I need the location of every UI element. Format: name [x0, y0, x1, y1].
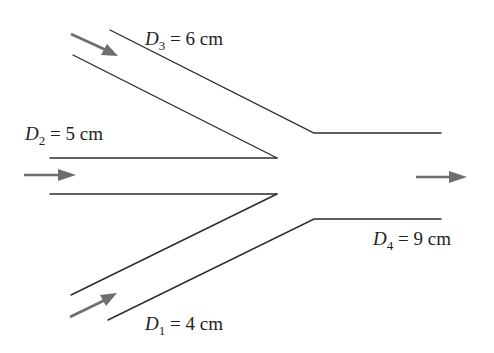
arrow-pipe-1 — [70, 293, 117, 317]
pipe-1-inner-wall — [71, 194, 277, 295]
pipe-3-inner-wall — [73, 55, 277, 158]
arrow-pipe-2 — [24, 169, 76, 181]
arrow-head-icon — [100, 293, 117, 306]
arrow-head-icon — [58, 169, 76, 181]
pipe-1-walls — [71, 194, 441, 320]
label-d3: D3 = 6 cm — [144, 28, 223, 53]
pipe-2-walls — [50, 158, 277, 194]
label-d1: D1 = 4 cm — [144, 313, 223, 338]
label-d4: D4 = 9 cm — [372, 228, 451, 253]
arrow-pipe-4 — [416, 171, 467, 183]
label-d2: D2 = 5 cm — [24, 123, 103, 148]
arrow-pipe-3 — [71, 34, 118, 56]
pipe-junction-diagram: D3 = 6 cm D2 = 5 cm D4 = 9 cm D1 = 4 cm — [0, 0, 494, 353]
pipe-1-outer-wall — [108, 219, 441, 320]
arrow-head-icon — [449, 171, 467, 183]
arrow-shaft — [70, 300, 105, 317]
arrow-shaft — [71, 34, 106, 50]
pipe-3-walls — [73, 30, 441, 158]
